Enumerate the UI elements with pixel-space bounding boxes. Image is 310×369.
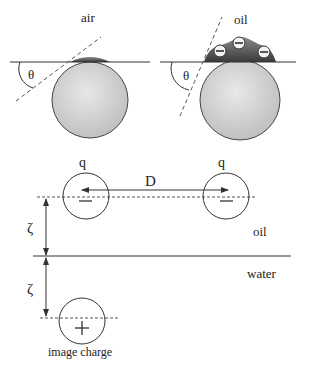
upper-medium-label: oil [253,224,267,239]
air-particle-panel: θ air [10,10,150,138]
image-charge-label: image charge [48,345,112,359]
upper-height-label: ζ [27,220,33,236]
oil-angle-label: θ [183,68,189,83]
oil-medium-label: oil [234,12,248,27]
left-charge-label: q [79,155,86,170]
interaction-panel: q q D ζ oil water ζ image charge [27,155,291,359]
ion-1 [214,45,226,57]
right-charge-label: q [218,155,225,170]
lower-medium-label: water [247,266,277,281]
left-charge-circle [63,173,109,219]
distance-label: D [145,173,156,189]
air-particle-cap [70,57,110,62]
air-medium-label: air [81,10,95,25]
ion-3 [258,46,270,58]
diagram-canvas: θ air θ oil q q [0,0,310,369]
air-particle-sphere [52,62,128,138]
oil-particle-panel: θ oil [160,12,296,140]
lower-height-label: ζ [27,281,33,297]
oil-particle-sphere [200,60,280,140]
ion-2 [233,37,245,49]
right-charge-circle [203,173,249,219]
air-angle-label: θ [28,67,34,82]
